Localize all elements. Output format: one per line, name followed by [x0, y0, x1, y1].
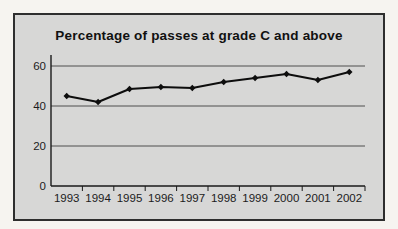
x-axis-tick-label: 1998: [211, 192, 237, 204]
y-axis-tick-label: 40: [33, 100, 46, 112]
plot-area: 0204060199319941995199619971998199920002…: [15, 15, 383, 219]
data-point-marker: [252, 75, 258, 81]
data-point-marker: [95, 99, 101, 105]
data-point-marker: [221, 79, 227, 85]
y-axis-tick-label: 60: [33, 60, 46, 72]
data-point-marker: [283, 71, 289, 77]
data-point-marker: [189, 85, 195, 91]
x-axis-tick-label: 2000: [274, 192, 300, 204]
y-axis-tick-label: 20: [33, 140, 46, 152]
data-point-marker: [346, 69, 352, 75]
x-axis-tick-label: 1993: [54, 192, 80, 204]
page-background: Percentage of passes at grade C and abov…: [0, 0, 398, 229]
chart-frame: Percentage of passes at grade C and abov…: [13, 13, 385, 221]
x-axis-tick-label: 1994: [85, 192, 111, 204]
x-axis-tick-label: 1996: [148, 192, 174, 204]
x-axis-tick-label: 2002: [337, 192, 363, 204]
data-point-marker: [126, 86, 132, 92]
x-axis-tick-label: 1997: [180, 192, 206, 204]
data-point-marker: [64, 93, 70, 99]
data-point-marker: [158, 84, 164, 90]
data-line: [67, 72, 350, 102]
x-axis-tick-label: 1999: [242, 192, 268, 204]
data-point-marker: [315, 77, 321, 83]
y-axis-tick-label: 0: [40, 180, 46, 192]
x-axis-tick-label: 1995: [117, 192, 143, 204]
x-axis-tick-label: 2001: [305, 192, 331, 204]
